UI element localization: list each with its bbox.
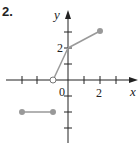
x-tick-label-2: 2 [96, 86, 102, 100]
segment-upper [68, 31, 100, 48]
y-axis-label: y [52, 7, 60, 22]
y-axis-arrow-icon [65, 10, 71, 19]
piecewise-graph: y x 2 0 2 [0, 0, 140, 147]
x-axis [6, 76, 138, 84]
y-tick-label-2: 2 [57, 41, 63, 55]
closed-point [50, 109, 56, 115]
x-axis-arrow-icon [129, 77, 138, 83]
closed-point [19, 109, 25, 115]
open-point [50, 77, 56, 83]
closed-point [97, 28, 103, 34]
x-axis-label: x [129, 84, 136, 99]
y-axis [64, 10, 72, 143]
x-tick-label-0: 0 [59, 85, 65, 99]
